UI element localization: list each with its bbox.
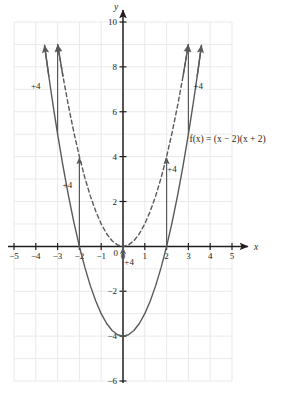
y-tick-label: 6 — [113, 107, 118, 117]
shift-amount-label: +4 — [167, 164, 177, 174]
curve-end-arrow — [183, 44, 188, 76]
function-equation-label: f(x) = (x − 2)(x + 2) — [189, 134, 265, 145]
axes — [8, 10, 248, 383]
x-tick-label: 5 — [230, 251, 235, 261]
y-tick-label: −2 — [107, 286, 117, 296]
origin-label: 0 — [114, 248, 119, 258]
y-axis-label: y — [113, 2, 119, 12]
x-tick-label: −4 — [31, 251, 41, 261]
function-transformation-chart: −5−4−3−2−10123451086420−2−4−6 +4+4+4+4+4… — [0, 0, 286, 395]
y-tick-label: −6 — [107, 376, 117, 386]
y-tick-label: 8 — [113, 62, 118, 72]
shift-amount-label: +4 — [31, 81, 41, 91]
shift-amount-label: +4 — [124, 257, 134, 267]
x-tick-label: −1 — [96, 251, 106, 261]
x-tick-label: −5 — [9, 251, 19, 261]
curve-end-arrow — [45, 45, 49, 76]
x-tick-label: −3 — [53, 251, 63, 261]
y-tick-label: 2 — [113, 197, 118, 207]
curve-end-arrow — [197, 45, 201, 76]
y-tick-label: 4 — [113, 152, 118, 162]
shift-amount-label: +4 — [193, 81, 203, 91]
y-tick-label: 10 — [108, 17, 118, 27]
x-tick-label: 1 — [143, 251, 148, 261]
x-tick-label: 3 — [186, 251, 191, 261]
x-axis-label: x — [253, 242, 259, 252]
curve-end-arrow — [58, 44, 63, 76]
shift-amount-label: +4 — [63, 180, 73, 190]
x-tick-label: 4 — [208, 251, 213, 261]
chart-canvas: −5−4−3−2−10123451086420−2−4−6 +4+4+4+4+4… — [0, 0, 286, 395]
